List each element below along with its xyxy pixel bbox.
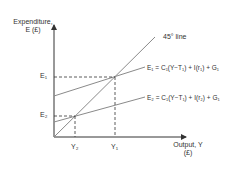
forty-five-line-label: 45° line — [163, 33, 186, 41]
y-axis-label-line1: Expenditure, — [8, 18, 58, 26]
x-axis-label-line1: Output, Y — [166, 141, 210, 149]
forty-five-degree-line — [54, 37, 155, 137]
y-axis-label-line2: E (£) — [8, 26, 58, 34]
y-axis-label: Expenditure, E (£) — [8, 18, 58, 34]
e1-tick-label: E₁ — [40, 72, 47, 80]
x-axis-label: Output, Y (£) — [166, 141, 210, 157]
e2-equation-label: E₂ = C₁(Y−T₁) + I(r₂) + G₁ — [147, 94, 220, 102]
y2-tick-label: Y₂ — [71, 143, 78, 151]
x-axis-label-line2: (£) — [166, 149, 210, 157]
e2-line — [54, 97, 145, 122]
e1-equation-label: E₁ = C₁(Y−T₁) + I(r₁) + G₁ — [147, 64, 219, 72]
y1-tick-label: Y₁ — [111, 143, 118, 151]
e2-tick-label: E₂ — [40, 111, 47, 119]
